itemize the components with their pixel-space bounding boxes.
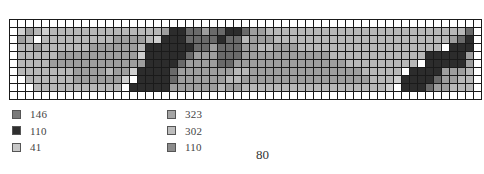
grid-cell — [122, 60, 130, 68]
grid-cell — [226, 44, 234, 52]
grid-cell — [130, 20, 138, 28]
grid-cell — [386, 76, 394, 84]
grid-cell — [322, 60, 330, 68]
grid-cell — [194, 60, 202, 68]
grid-cell — [258, 20, 266, 28]
grid-cell — [106, 92, 114, 100]
grid-cell — [186, 52, 194, 60]
grid-cell — [466, 36, 474, 44]
grid-cell — [186, 44, 194, 52]
grid-cell — [122, 76, 130, 84]
grid-cell — [106, 44, 114, 52]
grid-cell — [314, 68, 322, 76]
grid-cell — [114, 76, 122, 84]
grid-cell — [186, 20, 194, 28]
grid-cell — [242, 36, 250, 44]
grid-cell — [66, 44, 74, 52]
grid-cell — [394, 44, 402, 52]
grid-cell — [74, 76, 82, 84]
grid-cell — [154, 44, 162, 52]
grid-cell — [442, 60, 450, 68]
grid-cell — [354, 76, 362, 84]
grid-cell — [178, 76, 186, 84]
grid-cell — [474, 20, 482, 28]
grid-cell — [74, 60, 82, 68]
grid-cell — [314, 44, 322, 52]
grid-cell — [74, 44, 82, 52]
grid-cell — [330, 20, 338, 28]
grid-cell — [138, 52, 146, 60]
legend-item: 110 — [167, 139, 202, 156]
grid-cell — [338, 20, 346, 28]
grid-cell — [218, 20, 226, 28]
grid-cell — [98, 60, 106, 68]
grid-cell — [306, 28, 314, 36]
grid-cell — [298, 76, 306, 84]
grid-cell — [218, 92, 226, 100]
grid-cell — [314, 60, 322, 68]
grid-cell — [90, 68, 98, 76]
grid-cell — [250, 84, 258, 92]
grid-cell — [90, 76, 98, 84]
grid-cell — [210, 44, 218, 52]
grid-cell — [474, 52, 482, 60]
grid-cell — [450, 84, 458, 92]
grid-cell — [130, 60, 138, 68]
grid-cell — [90, 92, 98, 100]
grid-cell — [130, 84, 138, 92]
grid-cell — [306, 52, 314, 60]
grid-cell — [114, 68, 122, 76]
grid-cell — [10, 92, 18, 100]
grid-cell — [210, 36, 218, 44]
grid-cell — [162, 92, 170, 100]
color-swatch — [12, 110, 21, 119]
grid-cell — [450, 28, 458, 36]
grid-cell — [18, 84, 26, 92]
grid-cell — [386, 92, 394, 100]
grid-cell — [50, 28, 58, 36]
grid-cell — [282, 36, 290, 44]
grid-cell — [346, 52, 354, 60]
grid-cell — [258, 52, 266, 60]
grid-cell — [226, 68, 234, 76]
grid-cell — [242, 84, 250, 92]
grid-cell — [34, 20, 42, 28]
grid-cell — [450, 44, 458, 52]
grid-cell — [66, 92, 74, 100]
grid-cell — [298, 20, 306, 28]
grid-cell — [266, 60, 274, 68]
grid-cell — [26, 44, 34, 52]
grid-cell — [18, 52, 26, 60]
grid-cell — [434, 28, 442, 36]
grid-cell — [474, 28, 482, 36]
grid-cell — [418, 28, 426, 36]
grid-cell — [170, 20, 178, 28]
grid-cell — [50, 92, 58, 100]
grid-cell — [258, 92, 266, 100]
grid-cell — [90, 44, 98, 52]
grid-cell — [434, 92, 442, 100]
grid-cell — [122, 20, 130, 28]
grid-cell — [18, 60, 26, 68]
grid-cell — [66, 36, 74, 44]
grid-cell — [162, 28, 170, 36]
grid-cell — [170, 52, 178, 60]
grid-cell — [450, 60, 458, 68]
grid-cell — [58, 84, 66, 92]
grid-cell — [370, 68, 378, 76]
grid-cell — [274, 52, 282, 60]
legend-right: 323 302 110 — [167, 106, 202, 156]
grid-cell — [202, 44, 210, 52]
grid-cell — [434, 52, 442, 60]
grid-cell — [82, 68, 90, 76]
grid-cell — [218, 36, 226, 44]
grid-cell — [226, 20, 234, 28]
grid-cell — [250, 20, 258, 28]
grid-cell — [58, 36, 66, 44]
grid-cell — [274, 76, 282, 84]
grid-cell — [378, 36, 386, 44]
grid-cell — [322, 92, 330, 100]
grid-cell — [378, 76, 386, 84]
grid-cell — [458, 60, 466, 68]
grid-cell — [354, 60, 362, 68]
